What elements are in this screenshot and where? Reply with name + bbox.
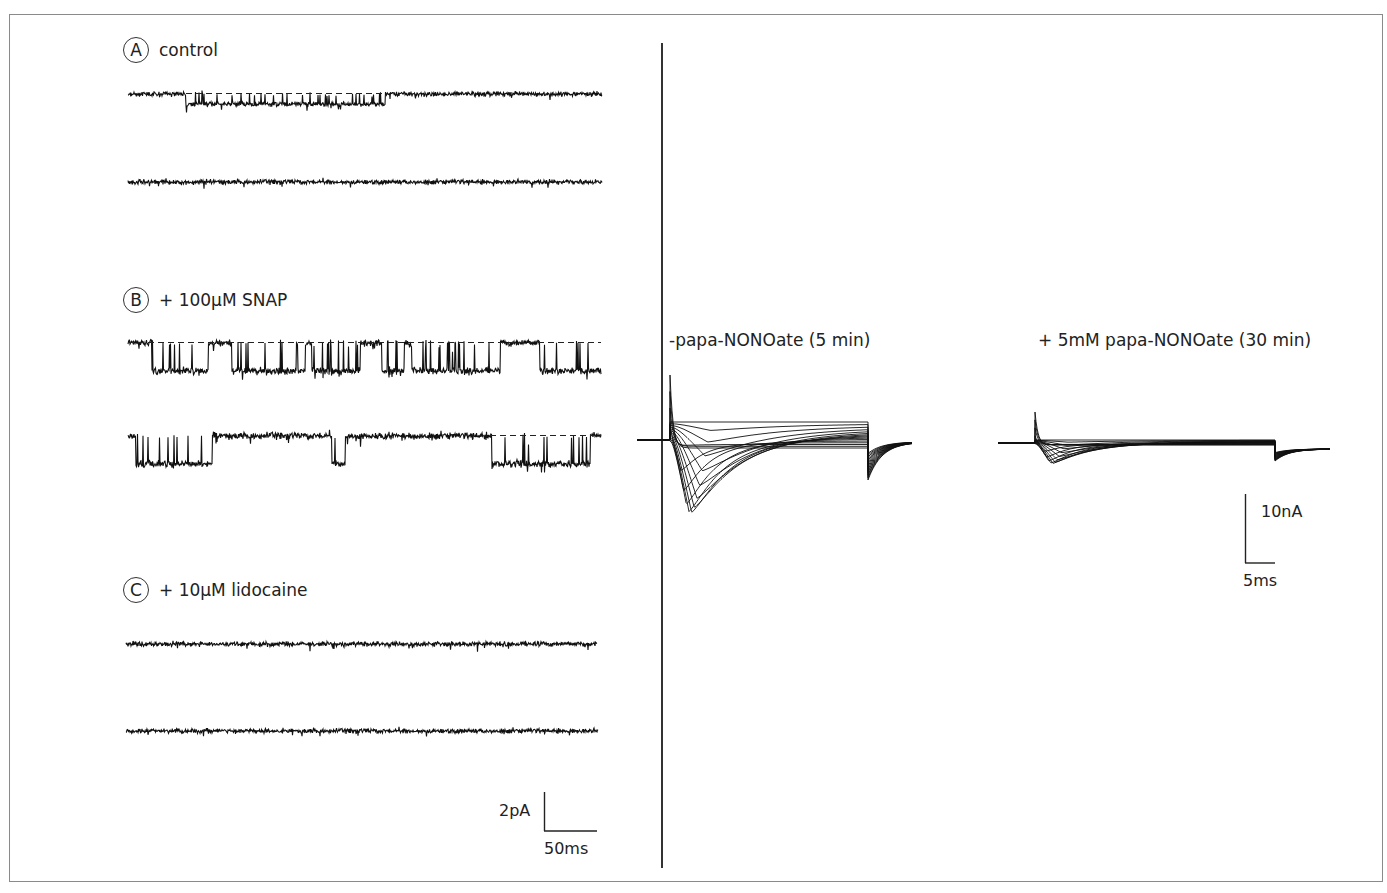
single-channel-scale-bar — [544, 792, 597, 831]
whole-cell-scale-bar — [1245, 494, 1275, 563]
traces-canvas — [0, 0, 1387, 893]
single-channel-traces — [126, 91, 602, 737]
whole-cell-traces-nonoate — [998, 412, 1330, 463]
whole-cell-traces-control — [637, 375, 912, 512]
